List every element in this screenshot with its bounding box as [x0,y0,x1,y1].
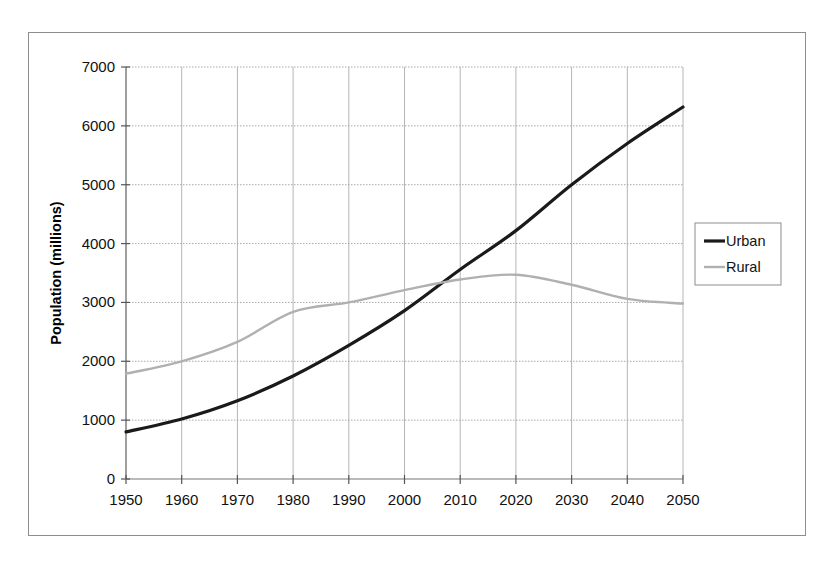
y-axis-tick-label: 2000 [82,352,115,369]
x-axis-tick-label: 2020 [499,491,532,508]
x-axis-tick-label: 1960 [165,491,198,508]
y-axis-tick-labels: 01000200030004000500060007000 [82,58,115,487]
x-axis-tick-label: 2010 [444,491,477,508]
y-axis-tick-label: 0 [107,470,115,487]
x-axis-tick-label: 1950 [109,491,142,508]
y-axis-tick-label: 5000 [82,176,115,193]
x-axis-tick-labels: 1950196019701980199020002010202020302040… [109,491,699,508]
x-axis-tick-label: 2050 [666,491,699,508]
x-axis-tick-label: 2030 [555,491,588,508]
population-line-chart: 01000200030004000500060007000 1950196019… [29,33,807,537]
y-axis-tick-label: 3000 [82,293,115,310]
figure-frame: 01000200030004000500060007000 1950196019… [28,32,806,536]
legend-label-urban: Urban [726,233,766,249]
y-axis-title-text: Population (millions) [48,201,64,345]
x-axis-tick-label: 1990 [332,491,365,508]
x-axis-tick-label: 1970 [221,491,254,508]
y-axis-tick-label: 1000 [82,411,115,428]
legend-label-rural: Rural [726,259,761,275]
chart-page: 01000200030004000500060007000 1950196019… [0,0,836,570]
y-axis-tick-label: 4000 [82,235,115,252]
x-axis-tick-label: 2040 [611,491,644,508]
chart-legend: UrbanRural [695,223,781,285]
y-axis-title: Population (millions) [48,201,64,345]
y-axis-tick-label: 6000 [82,117,115,134]
x-axis-tick-label: 1980 [276,491,309,508]
vertical-gridlines [126,67,683,479]
y-axis-tick-label: 7000 [82,58,115,75]
x-axis-tick-label: 2000 [388,491,421,508]
